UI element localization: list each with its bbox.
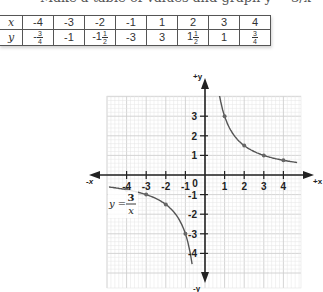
equation-denominator: x <box>128 205 134 216</box>
y-tick-label: -1 <box>188 190 197 201</box>
y-tick-label: -2 <box>188 209 197 220</box>
y-tick-label: 2 <box>191 131 197 142</box>
y-axis-arrow-down-icon <box>201 272 209 283</box>
label-neg-y: -y <box>193 284 201 292</box>
x-tick-label: -3 <box>142 181 151 192</box>
x-tick-label: 0 <box>192 178 198 189</box>
y-tick-label: -4 <box>188 248 197 259</box>
data-point <box>262 153 266 157</box>
equation-lhs: y = <box>108 198 126 209</box>
label-neg-x: -x <box>86 177 94 186</box>
data-point <box>242 144 246 148</box>
data-point <box>164 202 168 206</box>
x-tick-label: 2 <box>241 181 247 192</box>
curves <box>109 91 297 264</box>
data-point <box>183 232 187 236</box>
label-pos-x: +x <box>313 177 323 186</box>
label-pos-y: +y <box>193 72 203 81</box>
equation-label: y = 3 x <box>108 190 138 218</box>
y-tick-label: 1 <box>191 150 197 161</box>
x-tick-label: 4 <box>281 181 287 192</box>
data-point <box>223 114 227 118</box>
y-axis-arrow-up-icon <box>201 78 209 89</box>
curve-positive-branch <box>219 91 297 163</box>
x-tick-label: -2 <box>161 181 170 192</box>
x-tick-label: 3 <box>261 181 267 192</box>
data-point <box>281 158 285 162</box>
reciprocal-graph: +x -x +y -y -4-3-2-101234321-1-2-3-4 y =… <box>0 0 323 292</box>
x-tick-label: 1 <box>222 181 228 192</box>
y-tick-label: -3 <box>188 229 197 240</box>
y-tick-label: 3 <box>191 111 197 122</box>
equation-numerator: 3 <box>128 192 135 203</box>
data-point <box>144 193 148 197</box>
